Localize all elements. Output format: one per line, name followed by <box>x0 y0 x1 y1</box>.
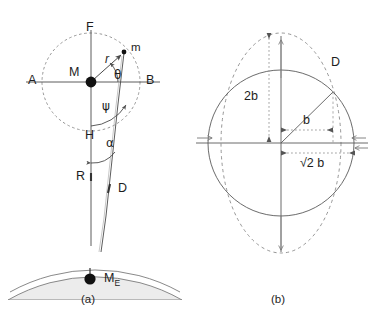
measure-2b-arrow-bottom <box>267 136 272 142</box>
label-angle-psi: ψ <box>102 100 110 112</box>
figure-root: A B F H M m r θ ψ α R D ME (a) D 2b b √2… <box>0 0 378 319</box>
label-sqrt2b: √2 b <box>300 157 324 170</box>
label-axis-b: B <box>146 74 154 87</box>
label-2b: 2b <box>244 90 258 103</box>
caption-panel-a: (a) <box>81 294 95 306</box>
label-earth-mass: ME <box>104 272 120 287</box>
label-b: b <box>303 114 310 127</box>
label-tip-mass-m: m <box>131 42 141 54</box>
measure-sqrt2b-arrow-left <box>281 151 287 156</box>
measure-sqrt2b-arrow-right <box>349 151 355 156</box>
tether-line <box>101 53 124 252</box>
measure-b-arrow-left <box>281 128 287 133</box>
measure-2b-arrow-top <box>267 33 272 39</box>
label-radius-r: r <box>105 53 109 65</box>
label-axis-f: F <box>86 21 94 34</box>
label-point-d: D <box>331 56 340 69</box>
label-angle-alpha: α <box>106 137 114 149</box>
tick-mark-d <box>108 184 110 193</box>
earth-mass-dot <box>84 273 95 284</box>
label-earth-mass-sub: E <box>114 278 120 288</box>
label-tether-d: D <box>118 182 127 195</box>
label-angle-theta: θ <box>114 69 121 81</box>
label-earth-mass-main: M <box>104 271 114 285</box>
label-center-mass-m: M <box>69 66 79 79</box>
label-tether-r: R <box>76 170 85 183</box>
tip-mass-dot <box>122 50 127 55</box>
tether-line-secondary <box>99 56 122 252</box>
label-axis-h: H <box>85 129 94 142</box>
measure-b-arrow-right <box>327 128 333 133</box>
center-of-mass-dot <box>86 77 97 88</box>
caption-panel-b: (b) <box>271 294 285 306</box>
label-axis-a: A <box>28 74 36 87</box>
